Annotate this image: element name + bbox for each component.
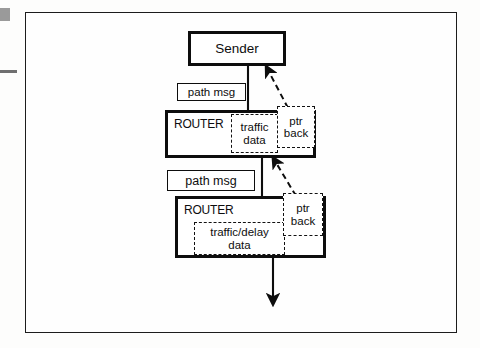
state-block-ptr-back-2[interactable]: ptr back bbox=[283, 193, 323, 236]
router-1-label: ROUTER bbox=[174, 117, 223, 131]
diagram-page: Sender path msg ROUTER traffic data ptr … bbox=[0, 0, 480, 348]
scan-artifact-block bbox=[0, 8, 10, 21]
ptr-back-2-line-2: back bbox=[291, 215, 315, 227]
ptr-back-1-line-1: ptr bbox=[289, 115, 302, 127]
label-path-msg-2[interactable]: path msg bbox=[167, 170, 255, 191]
path-msg-2-text: path msg bbox=[185, 174, 236, 188]
traffic-data-1-line-2: data bbox=[243, 134, 265, 146]
label-path-msg-1[interactable]: path msg bbox=[177, 83, 246, 101]
traffic-data-1-line-1: traffic bbox=[241, 121, 269, 133]
state-block-ptr-back-1[interactable]: ptr back bbox=[277, 106, 315, 148]
router-2-label: ROUTER bbox=[184, 203, 233, 217]
traffic-delay-data-2-line-2: data bbox=[228, 239, 250, 251]
path-msg-1-text: path msg bbox=[188, 86, 235, 98]
ptr-back-2-line-1: ptr bbox=[296, 202, 309, 214]
node-sender[interactable]: Sender bbox=[188, 31, 286, 66]
scan-artifact-dash bbox=[0, 70, 17, 73]
sender-label: Sender bbox=[215, 41, 259, 56]
state-block-traffic-delay-data-2[interactable]: traffic/delay data bbox=[194, 222, 285, 255]
ptr-back-1-line-2: back bbox=[284, 127, 308, 139]
traffic-delay-data-2-line-1: traffic/delay bbox=[210, 226, 269, 238]
state-block-traffic-data-1[interactable]: traffic data bbox=[231, 114, 278, 153]
